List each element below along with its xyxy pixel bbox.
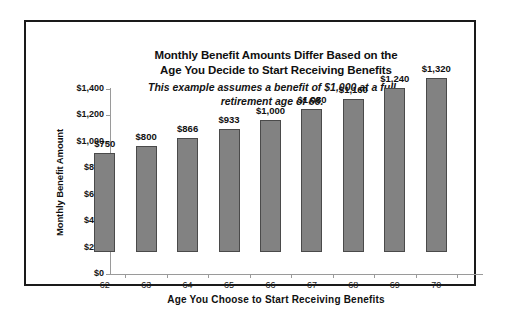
y-axis-tick-label: $1,400 — [76, 83, 104, 93]
chart-frame: Monthly Benefit Amounts Differ Based on … — [24, 20, 476, 286]
x-axis-category-label: 69 — [375, 280, 415, 290]
x-axis-tick-mark — [374, 274, 375, 278]
x-axis-category-label: 62 — [85, 280, 125, 290]
bar-value-label: $1,320 — [406, 63, 466, 74]
y-axis-tick-mark — [106, 274, 110, 275]
x-axis-tick-mark — [333, 274, 334, 278]
bar[interactable] — [301, 109, 322, 252]
y-axis-tick-label: $0 — [94, 268, 104, 278]
x-axis-category-label: 67 — [292, 280, 332, 290]
x-axis-tick-mark — [416, 274, 417, 278]
x-axis-category-label: 68 — [333, 280, 373, 290]
bar[interactable] — [260, 120, 281, 252]
y-axis-tick-mark — [106, 89, 110, 90]
y-axis-tick-label: $1,200 — [76, 109, 104, 119]
bar[interactable] — [219, 129, 240, 252]
bar[interactable] — [426, 78, 447, 252]
x-axis-tick-mark — [291, 274, 292, 278]
x-axis-tick-mark — [457, 274, 458, 278]
x-axis-tick-mark — [208, 274, 209, 278]
x-axis-category-label: 66 — [251, 280, 291, 290]
x-axis-category-label: 70 — [416, 280, 456, 290]
bar-value-label: $1,000 — [241, 105, 301, 116]
bar-value-label: $1,160 — [323, 84, 383, 95]
x-axis-tick-mark — [125, 274, 126, 278]
bar[interactable] — [136, 146, 157, 252]
x-axis-tick-mark — [167, 274, 168, 278]
x-axis-title: Age You Choose to Start Receiving Benefi… — [60, 294, 492, 305]
bar[interactable] — [384, 88, 405, 252]
y-axis-tick-mark — [106, 115, 110, 116]
x-axis-category-label: 63 — [126, 280, 166, 290]
chart-title-line-1: Monthly Benefit Amounts Differ Based on … — [60, 48, 492, 63]
bar[interactable] — [343, 99, 364, 252]
x-axis-category-label: 65 — [209, 280, 249, 290]
bar[interactable] — [177, 138, 198, 252]
x-axis-category-label: 64 — [168, 280, 208, 290]
y-axis-title: Monthly Benefit Amount — [54, 118, 65, 248]
bar-value-label: $1,240 — [365, 73, 425, 84]
bar-value-label: $1,080 — [282, 94, 342, 105]
x-axis-tick-mark — [250, 274, 251, 278]
bar[interactable] — [94, 153, 115, 252]
